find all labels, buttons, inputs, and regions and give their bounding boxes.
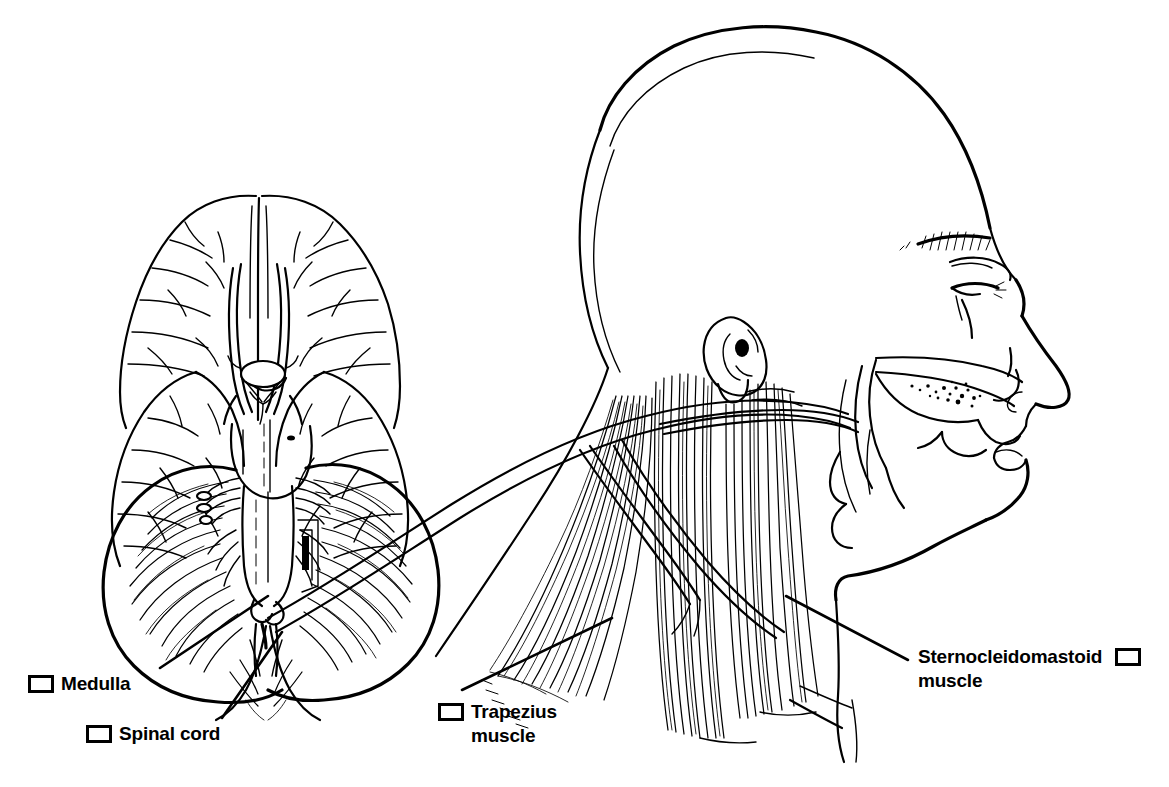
- label-sternocleidomastoid-line1: Sternocleidomastoid: [918, 646, 1102, 667]
- checkbox-sternocleidomastoid[interactable]: [1115, 648, 1141, 666]
- label-spinal-cord-text: Spinal cord: [119, 722, 220, 746]
- checkbox-spinal-cord[interactable]: [86, 725, 112, 743]
- label-sternocleidomastoid[interactable]: Sternocleidomastoid muscle: [918, 645, 1141, 693]
- checkbox-medulla[interactable]: [28, 675, 54, 693]
- label-medulla[interactable]: Medulla: [28, 672, 130, 696]
- label-trapezius-line1: Trapezius: [471, 701, 557, 722]
- checkbox-trapezius[interactable]: [438, 703, 464, 721]
- label-trapezius-line2: muscle: [471, 724, 557, 748]
- label-sternocleidomastoid-line2: muscle: [918, 669, 1102, 693]
- label-trapezius[interactable]: Trapezius muscle: [438, 700, 557, 748]
- label-spinal-cord[interactable]: Spinal cord: [86, 722, 220, 746]
- label-medulla-text: Medulla: [61, 672, 130, 696]
- figure-canvas: .ln { fill:none; stroke:#000; stroke-wid…: [0, 0, 1169, 787]
- label-sternocleidomastoid-text: Sternocleidomastoid muscle: [918, 645, 1102, 693]
- label-trapezius-text: Trapezius muscle: [471, 700, 557, 748]
